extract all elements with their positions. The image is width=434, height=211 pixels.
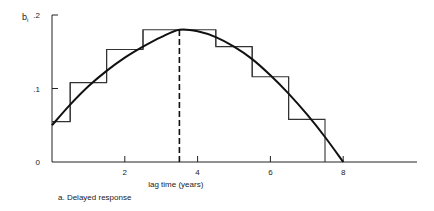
x-tick-label: 8 <box>341 168 346 177</box>
x-tick-label: 6 <box>268 168 273 177</box>
lag-distribution-chart: 0.1.22468bilag time (years)a. Delayed re… <box>0 0 434 211</box>
y-tick-label: 0 <box>36 158 41 167</box>
step-series <box>52 30 325 162</box>
x-tick-label: 2 <box>123 168 128 177</box>
y-tick-label: .2 <box>33 11 40 20</box>
y-tick-label: .1 <box>33 85 40 94</box>
x-axis-label: lag time (years) <box>148 180 203 189</box>
smooth-curve-series <box>52 29 343 162</box>
y-axis-label: bi <box>22 12 28 23</box>
x-tick-label: 4 <box>195 168 200 177</box>
figure-caption: a. Delayed response <box>58 193 132 202</box>
